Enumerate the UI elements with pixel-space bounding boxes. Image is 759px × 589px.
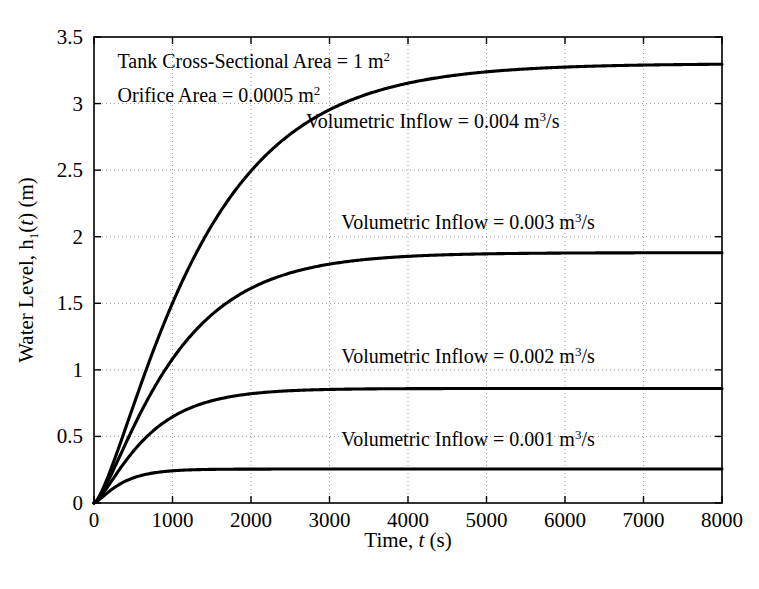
x-tick-label: 0	[89, 508, 100, 532]
y-axis-title-paren-open: (	[14, 226, 38, 233]
y-tick-label: 0	[73, 491, 84, 515]
label-inflow-003-text: Volumetric Inflow = 0.003 m	[341, 211, 575, 233]
label-inflow-001-text: Volumetric Inflow = 0.001 m	[341, 428, 575, 450]
label-inflow-001: Volumetric Inflow = 0.001 m3/s	[341, 427, 595, 450]
y-tick-label: 2	[73, 225, 84, 249]
tank-area: Tank Cross-Sectional Area = 1 m2	[118, 49, 390, 72]
orifice-area: Orifice Area = 0.0005 m2	[118, 83, 321, 106]
x-tick-label: 6000	[544, 508, 586, 532]
y-tick-label: 0.5	[57, 424, 83, 448]
y-axis-title-text: Water Level, h	[14, 239, 38, 363]
label-inflow-003: Volumetric Inflow = 0.003 m3/s	[341, 210, 595, 233]
label-inflow-002-text: Volumetric Inflow = 0.002 m	[341, 345, 575, 367]
y-tick-label: 2.5	[57, 158, 83, 182]
x-axis-title-text: Time,	[364, 528, 418, 552]
x-tick-label: 7000	[623, 508, 665, 532]
label-inflow-002: Volumetric Inflow = 0.002 m3/s	[341, 344, 595, 367]
y-axis-title-unit: ) (m)	[14, 177, 38, 220]
y-axis-title: Water Level, h1(t) (m)	[14, 177, 41, 363]
x-tick-label: 2000	[230, 508, 272, 532]
x-tick-label: 8000	[701, 508, 743, 532]
chart-figure: 010002000300040005000600070008000 00.511…	[0, 0, 759, 589]
label-inflow-004: Volumetric Inflow = 0.004 m3/s	[306, 109, 560, 132]
tank-area-text: Tank Cross-Sectional Area = 1 m	[118, 50, 384, 72]
x-axis-title: Time, t (s)	[364, 528, 451, 552]
y-tick-label: 3	[73, 92, 84, 116]
x-tick-label: 5000	[466, 508, 508, 532]
x-tick-label: 1000	[152, 508, 194, 532]
orifice-area-text: Orifice Area = 0.0005 m	[118, 84, 315, 106]
x-axis-title-unit: (s)	[424, 528, 451, 552]
label-inflow-003-suffix: /s	[581, 211, 595, 233]
orifice-area-exponent: 2	[314, 83, 321, 98]
label-inflow-002-suffix: /s	[581, 345, 595, 367]
svg-text:Time, t (s): Time, t (s)	[364, 528, 451, 552]
x-tick-label: 3000	[309, 508, 351, 532]
chart-background	[0, 0, 759, 589]
label-inflow-004-suffix: /s	[546, 110, 560, 132]
label-inflow-004-text: Volumetric Inflow = 0.004 m	[306, 110, 540, 132]
y-tick-label: 3.5	[57, 25, 83, 49]
tank-area-exponent: 2	[383, 49, 390, 64]
svg-text:Water Level, h1(t) (m): Water Level, h1(t) (m)	[14, 177, 41, 363]
label-inflow-001-suffix: /s	[581, 428, 595, 450]
water-level-line-chart: 010002000300040005000600070008000 00.511…	[0, 0, 759, 589]
y-tick-label: 1	[73, 358, 84, 382]
y-tick-label: 1.5	[57, 291, 83, 315]
